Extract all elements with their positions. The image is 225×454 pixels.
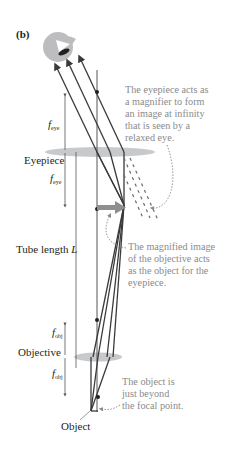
focal-point-obj-top [95, 318, 99, 322]
object-note: The object is just beyond the focal poin… [121, 376, 183, 411]
f-obj-bottom-label: fobj [52, 367, 63, 380]
svg-text:of the objective acts: of the objective acts [128, 253, 210, 264]
svg-text:as the object for the: as the object for the [128, 265, 209, 276]
tube-length-label: Tube length L [16, 243, 77, 255]
svg-text:a magnifier to form: a magnifier to form [125, 96, 205, 107]
object-leader [80, 411, 90, 420]
eyepiece-note: The eyepiece acts as a magnifier to form… [125, 84, 208, 143]
svg-text:just beyond: just beyond [121, 388, 169, 399]
svg-text:the focal point.: the focal point. [122, 400, 183, 411]
eyepiece-label: Eyepiece [24, 154, 64, 166]
svg-text:The magnified image: The magnified image [128, 241, 216, 252]
object-note-pointer [101, 405, 120, 410]
image-note: The magnified image of the objective act… [128, 241, 216, 288]
svg-text:The object is: The object is [122, 376, 175, 387]
microscope-diagram: (b) [0, 0, 225, 454]
focal-point-obj-bottom [96, 395, 100, 399]
eye-icon [43, 32, 76, 62]
focal-point-eye-top [95, 90, 99, 94]
svg-text:that is seen by a: that is seen by a [125, 120, 191, 131]
svg-text:relaxed eye.: relaxed eye. [125, 132, 174, 143]
panel-label: (b) [16, 28, 30, 41]
object-label: Object [61, 420, 90, 432]
eyepiece-note-pointer [152, 145, 173, 208]
svg-text:eyepiece.: eyepiece. [128, 277, 166, 288]
tube-rays [93, 152, 124, 357]
f-obj-top-label: fobj [52, 326, 63, 339]
intermediate-image-arrow [97, 201, 126, 214]
object-rays [91, 357, 110, 411]
objective-label: Objective [18, 346, 61, 358]
virtual-rays [124, 158, 158, 220]
svg-text:The eyepiece acts as: The eyepiece acts as [125, 84, 208, 95]
f-eye-bottom-label: feye [50, 172, 62, 185]
f-eye-top-label: feye [48, 118, 60, 131]
emerging-rays [56, 58, 124, 152]
svg-text:an image at infinity: an image at infinity [125, 108, 205, 119]
